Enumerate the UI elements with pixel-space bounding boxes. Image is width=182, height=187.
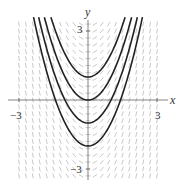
slope-segment: [115, 49, 117, 54]
slope-segment: [129, 118, 130, 123]
slope-segment: [143, 56, 144, 61]
slope-segment: [150, 104, 151, 109]
slope-segment: [129, 132, 130, 137]
slope-segment: [100, 126, 103, 130]
slope-segment: [150, 139, 151, 144]
slope-segment: [93, 92, 97, 95]
slope-segment: [93, 85, 97, 88]
slope-segment: [19, 125, 20, 130]
slope-segment: [46, 111, 47, 116]
slope-segment: [46, 77, 47, 82]
slope-segment: [136, 84, 137, 89]
slope-segment: [25, 125, 26, 130]
slope-segment: [100, 36, 103, 40]
slope-segment: [19, 153, 20, 158]
slope-segment: [93, 43, 97, 46]
slope-segment: [79, 112, 83, 115]
slope-segment: [39, 104, 40, 109]
slope-segment: [100, 119, 103, 123]
slope-segment: [122, 77, 124, 82]
slope-segment: [39, 118, 40, 123]
slope-segment: [59, 174, 61, 179]
slope-segment: [32, 63, 33, 68]
slope-segment: [157, 35, 158, 40]
slope-segment: [53, 146, 55, 151]
slope-segment: [25, 35, 26, 40]
slope-segment: [79, 106, 83, 109]
slope-segment: [157, 84, 158, 89]
slope-segment: [107, 160, 109, 164]
slope-segment: [66, 132, 68, 136]
slope-segment: [122, 160, 124, 165]
slope-segment: [53, 132, 55, 137]
slope-segment: [39, 77, 40, 82]
slope-segment: [32, 84, 33, 89]
slope-segment: [93, 175, 97, 178]
slope-segment: [73, 22, 76, 26]
slope-segment: [73, 29, 76, 33]
slope-segment: [32, 167, 33, 172]
slope-segment: [32, 160, 33, 165]
slope-segment: [129, 160, 130, 165]
slope-segment: [143, 29, 144, 34]
slope-field-plot: x y −3 3 3 −3: [0, 0, 182, 187]
slope-segment: [143, 77, 144, 82]
slope-segment: [122, 146, 124, 151]
slope-segment: [93, 133, 97, 136]
slope-segment: [39, 63, 40, 68]
slope-segment: [150, 125, 151, 130]
slope-segment: [150, 84, 151, 89]
slope-segment: [129, 173, 130, 178]
slope-segment: [122, 167, 124, 172]
slope-segment: [53, 111, 55, 116]
slope-segment: [39, 91, 40, 96]
slope-segment: [32, 77, 33, 82]
slope-segment: [46, 35, 47, 40]
slope-segment: [150, 49, 151, 54]
slope-segment: [25, 42, 26, 47]
slope-segment: [122, 153, 124, 158]
slope-segment: [93, 23, 97, 26]
slope-segment: [66, 63, 68, 67]
slope-segment: [143, 118, 144, 123]
slope-segment: [53, 139, 55, 144]
slope-segment: [19, 63, 20, 68]
slope-segment: [150, 77, 151, 82]
slope-segment: [32, 104, 33, 109]
slope-segment: [53, 77, 55, 82]
slope-segment: [66, 174, 68, 178]
slope-segment: [115, 174, 117, 179]
slope-segment: [100, 57, 103, 61]
slope-segment: [143, 111, 144, 116]
slope-segment: [129, 56, 130, 61]
slope-segment: [59, 125, 61, 130]
slope-segment: [115, 125, 117, 130]
slope-segment: [19, 56, 20, 61]
slope-segment: [107, 22, 109, 26]
slope-segment: [59, 132, 61, 137]
slope-segment: [73, 119, 76, 123]
slope-segment: [79, 64, 83, 67]
slope-segment: [93, 78, 97, 81]
slope-segment: [129, 146, 130, 151]
slope-segment: [39, 56, 40, 61]
x-tick-label-max: 3: [155, 109, 161, 121]
slope-segment: [157, 153, 158, 158]
slope-segment: [46, 91, 47, 96]
slope-segment: [66, 29, 68, 33]
slope-segment: [79, 147, 83, 150]
slope-segment: [136, 139, 137, 144]
slope-segment: [39, 70, 40, 75]
slope-segment: [136, 91, 137, 96]
slope-segment: [19, 167, 20, 172]
slope-segment: [107, 36, 109, 40]
slope-segment: [25, 173, 26, 178]
slope-segment: [100, 43, 103, 47]
slope-segment: [136, 125, 137, 130]
slope-segment: [79, 78, 83, 81]
slope-segment: [100, 153, 103, 157]
slope-segment: [143, 153, 144, 158]
slope-segment: [100, 84, 103, 88]
slope-segment: [157, 22, 158, 27]
slope-segment: [66, 91, 68, 95]
